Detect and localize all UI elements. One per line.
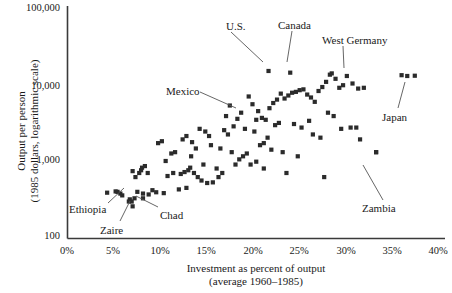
data-point-labeled bbox=[374, 150, 378, 154]
data-point bbox=[313, 100, 317, 104]
annotation-label: Chad bbox=[160, 210, 183, 221]
data-point bbox=[233, 162, 237, 166]
data-point bbox=[182, 170, 186, 174]
data-point bbox=[292, 122, 296, 126]
data-point bbox=[260, 116, 264, 120]
y-tick-label-100: 100 bbox=[0, 231, 60, 242]
data-point bbox=[160, 139, 164, 143]
data-point bbox=[269, 148, 273, 152]
x-axis-title: Investment as percent of output (average… bbox=[67, 262, 445, 288]
data-point bbox=[173, 150, 177, 154]
data-point bbox=[239, 111, 243, 115]
data-point bbox=[298, 88, 302, 92]
data-point bbox=[265, 136, 269, 140]
data-point bbox=[262, 141, 266, 145]
data-point-labeled bbox=[330, 71, 334, 75]
data-point bbox=[177, 187, 181, 191]
data-point bbox=[205, 181, 209, 185]
data-points-layer bbox=[105, 69, 417, 209]
data-point bbox=[243, 127, 247, 131]
leader-line bbox=[120, 201, 130, 221]
data-point bbox=[250, 102, 254, 106]
data-point bbox=[235, 117, 239, 121]
x-tick-label-20: 20% bbox=[233, 246, 273, 257]
annotation-label: Zambia bbox=[362, 203, 396, 214]
data-point bbox=[224, 114, 228, 118]
data-point bbox=[226, 132, 230, 136]
data-point bbox=[248, 162, 252, 166]
data-point bbox=[309, 95, 313, 99]
data-point bbox=[320, 85, 324, 89]
annotation-label: U.S. bbox=[226, 21, 246, 32]
x-tick-label-5: 5% bbox=[93, 246, 133, 257]
annotation-label: Zaire bbox=[100, 225, 123, 236]
leader-line bbox=[363, 165, 383, 200]
data-point bbox=[209, 143, 213, 147]
data-point bbox=[294, 90, 298, 94]
data-point bbox=[286, 93, 290, 97]
x-tick-label-30: 30% bbox=[326, 246, 366, 257]
data-point bbox=[143, 164, 147, 168]
x-tick-label-15: 15% bbox=[186, 246, 226, 257]
data-point bbox=[141, 191, 145, 195]
data-point bbox=[296, 154, 300, 158]
x-tick-label-25: 25% bbox=[279, 246, 319, 257]
data-point bbox=[258, 143, 262, 147]
data-point bbox=[131, 169, 135, 173]
data-point bbox=[349, 125, 353, 129]
data-point bbox=[156, 141, 160, 145]
annotation-label: Mexico bbox=[166, 86, 200, 97]
data-point bbox=[203, 129, 207, 133]
data-point bbox=[201, 162, 205, 166]
x-axis-title-line1: Investment as percent of output bbox=[187, 262, 326, 274]
data-point bbox=[133, 175, 137, 179]
data-point bbox=[305, 92, 309, 96]
data-point bbox=[147, 192, 151, 196]
data-point bbox=[211, 180, 215, 184]
data-point bbox=[150, 188, 154, 192]
data-point bbox=[271, 101, 275, 105]
data-point bbox=[362, 86, 366, 90]
data-point bbox=[131, 204, 135, 208]
data-point bbox=[264, 118, 268, 122]
data-point bbox=[196, 175, 200, 179]
data-point bbox=[337, 86, 341, 90]
data-point bbox=[230, 150, 234, 154]
annotation-label: Canada bbox=[278, 20, 311, 31]
data-point bbox=[339, 127, 343, 131]
x-axis-title-line2: (average 1960–1985) bbox=[209, 275, 303, 287]
data-point bbox=[333, 77, 337, 81]
data-point bbox=[215, 166, 219, 170]
scatter-chart-figure: 100,000 10,000 1,000 100 0% 5% 10% 15% 2… bbox=[0, 0, 452, 293]
data-point bbox=[184, 186, 188, 190]
data-point bbox=[252, 129, 256, 133]
data-point bbox=[237, 157, 241, 161]
data-point bbox=[120, 193, 124, 197]
data-point-labeled bbox=[254, 118, 258, 122]
data-point bbox=[273, 123, 277, 127]
data-point bbox=[326, 111, 330, 115]
x-tick-label-10: 10% bbox=[140, 246, 180, 257]
leader-line bbox=[343, 46, 344, 68]
data-point bbox=[267, 106, 271, 110]
data-point bbox=[105, 191, 109, 195]
data-point bbox=[356, 86, 360, 90]
data-point bbox=[169, 151, 173, 155]
leader-line bbox=[398, 82, 405, 108]
data-point bbox=[190, 140, 194, 144]
data-point bbox=[165, 174, 169, 178]
data-point bbox=[254, 160, 258, 164]
leader-line bbox=[200, 92, 236, 108]
data-point bbox=[284, 171, 288, 175]
annotation-label: Japan bbox=[382, 112, 407, 123]
data-point bbox=[241, 154, 245, 158]
data-point bbox=[281, 150, 285, 154]
data-point bbox=[216, 175, 220, 179]
data-point bbox=[354, 125, 358, 129]
data-point bbox=[262, 166, 266, 170]
data-point bbox=[307, 119, 311, 123]
data-point bbox=[194, 146, 198, 150]
data-point-labeled bbox=[288, 71, 292, 75]
data-point bbox=[350, 81, 354, 85]
data-point bbox=[282, 96, 286, 100]
